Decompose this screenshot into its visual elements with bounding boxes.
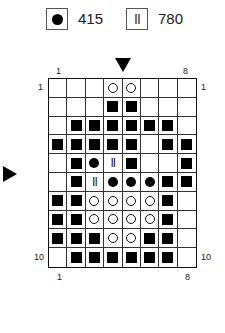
- filled-square-icon: [71, 139, 82, 150]
- grid-cell: [104, 79, 122, 98]
- double-bar-icon: II: [92, 176, 97, 188]
- filled-dot-icon: [145, 177, 155, 187]
- grid-cell: [49, 135, 67, 154]
- grid-cell: [141, 79, 159, 98]
- grid-cell: [123, 98, 141, 117]
- filled-square-icon: [126, 252, 137, 263]
- grid-cell: [104, 117, 122, 136]
- grid-cell: [159, 211, 177, 230]
- grid-cell: II: [104, 154, 122, 173]
- grid-cell: [178, 211, 196, 230]
- filled-square-icon: [162, 252, 173, 263]
- grid-cell: [104, 192, 122, 211]
- open-circle-icon: [126, 83, 136, 93]
- open-circle-icon: [108, 83, 118, 93]
- filled-square-icon: [126, 158, 137, 169]
- row-label-top-right: 1: [201, 82, 206, 92]
- filled-square-icon: [181, 139, 192, 150]
- filled-square-icon: [89, 252, 100, 263]
- filled-square-icon: [71, 233, 82, 244]
- grid-cell: [86, 117, 104, 136]
- grid-cell: [141, 117, 159, 136]
- grid-cell: [49, 248, 67, 267]
- legend-label-bars: 780: [158, 8, 183, 30]
- grid-cell: [86, 154, 104, 173]
- filled-square-icon: [71, 214, 82, 225]
- grid-cell: [67, 135, 85, 154]
- grid-cell: [141, 154, 159, 173]
- open-circle-icon: [108, 196, 118, 206]
- grid-cell: [104, 229, 122, 248]
- knitting-chart-grid: IIII: [48, 78, 197, 268]
- grid-cell: [141, 229, 159, 248]
- filled-square-icon: [181, 158, 192, 169]
- open-circle-icon: [89, 214, 99, 224]
- grid-cell: [178, 229, 196, 248]
- top-label-right: 8: [183, 66, 188, 76]
- grid-cell: [123, 192, 141, 211]
- filled-square-icon: [162, 233, 173, 244]
- filled-square-icon: [144, 233, 155, 244]
- filled-square-icon: [107, 139, 118, 150]
- grid-cell: II: [86, 173, 104, 192]
- grid-cell: [141, 192, 159, 211]
- filled-square-icon: [52, 233, 63, 244]
- grid-cell: [86, 229, 104, 248]
- filled-square-icon: [52, 214, 63, 225]
- filled-square-icon: [52, 195, 63, 206]
- open-circle-icon: [126, 233, 136, 243]
- grid-cell: [141, 98, 159, 117]
- grid-cell: [86, 98, 104, 117]
- center-column-arrow-icon: [115, 58, 131, 72]
- filled-square-icon: [52, 139, 63, 150]
- filled-square-icon: [71, 158, 82, 169]
- grid-cell: [123, 229, 141, 248]
- filled-square-icon: [126, 120, 137, 131]
- grid-cell: [159, 173, 177, 192]
- grid-cell: [178, 98, 196, 117]
- grid-cell: [159, 117, 177, 136]
- grid-cell: [104, 248, 122, 267]
- grid-cell: [67, 98, 85, 117]
- open-circle-icon: [126, 214, 136, 224]
- row-label-top-left: 1: [38, 82, 43, 92]
- filled-square-icon: [71, 176, 82, 187]
- grid-cell: [67, 173, 85, 192]
- grid-cell: [49, 117, 67, 136]
- grid-cell: [86, 211, 104, 230]
- grid-cell: [86, 135, 104, 154]
- filled-dot-icon: [89, 158, 99, 168]
- grid-cell: [67, 211, 85, 230]
- grid-cell: [67, 229, 85, 248]
- grid-cell: [104, 211, 122, 230]
- grid-cell: [49, 98, 67, 117]
- center-row-arrow-icon: [3, 166, 17, 182]
- grid-cell: [123, 173, 141, 192]
- grid-cell: [141, 211, 159, 230]
- legend-swatch-bars: II: [126, 8, 148, 30]
- filled-square-icon: [126, 101, 137, 112]
- grid-cell: [123, 79, 141, 98]
- filled-square-icon: [126, 139, 137, 150]
- grid-cell: [49, 211, 67, 230]
- filled-square-icon: [162, 139, 173, 150]
- grid-cell: [123, 135, 141, 154]
- grid-cell: [123, 117, 141, 136]
- grid-cell: [123, 154, 141, 173]
- grid-cell: [104, 173, 122, 192]
- grid-cell: [178, 135, 196, 154]
- filled-dot-icon: [52, 14, 63, 25]
- grid-cell: [49, 173, 67, 192]
- row-label-bottom-left: 10: [34, 252, 44, 262]
- filled-square-icon: [71, 195, 82, 206]
- grid-cell: [159, 79, 177, 98]
- grid-cell: [178, 248, 196, 267]
- grid-cell: [159, 248, 177, 267]
- filled-square-icon: [162, 214, 173, 225]
- open-circle-icon: [126, 196, 136, 206]
- grid-cell: [141, 135, 159, 154]
- open-circle-icon: [89, 196, 99, 206]
- grid-cell: [178, 154, 196, 173]
- grid-cell: [67, 192, 85, 211]
- grid-cell: [104, 98, 122, 117]
